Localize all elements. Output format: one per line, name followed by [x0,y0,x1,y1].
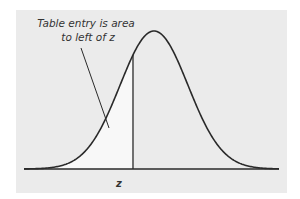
annotation-line-1: Table entry is area [37,17,135,29]
z-label: z [115,178,122,189]
normal-curve-diagram: Table entry is area to left of z z [0,0,300,199]
annotation-line-2: to left of z [61,31,115,43]
